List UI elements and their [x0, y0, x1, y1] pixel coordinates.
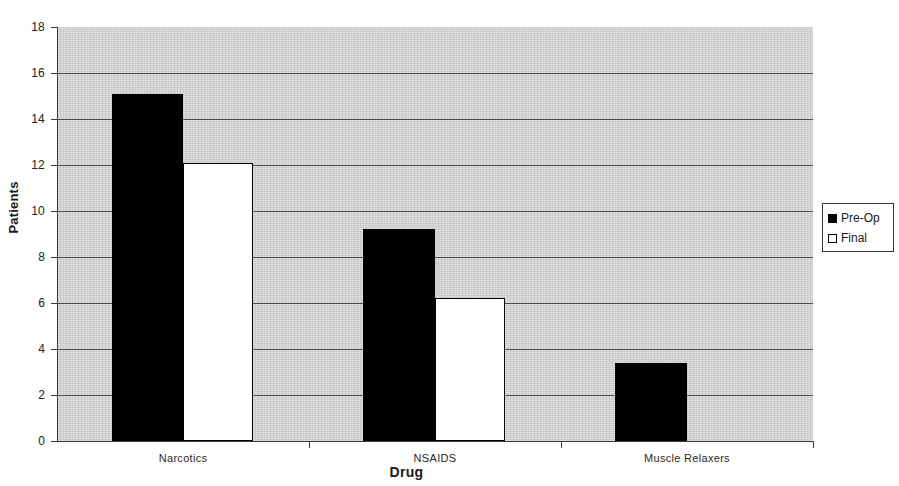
- x-tick-mark-3: [813, 441, 814, 448]
- y-tick-label-6: 6: [17, 297, 45, 309]
- y-tick-label-0: 0: [17, 435, 45, 447]
- legend-item-pre-op: Pre-Op: [828, 208, 889, 228]
- y-tick-mark-14: [51, 119, 58, 120]
- y-tick-label-10: 10: [17, 205, 45, 217]
- x-axis-line: [57, 441, 814, 442]
- x-tick-mark-2: [561, 441, 562, 448]
- y-tick-mark-8: [51, 257, 58, 258]
- y-tick-label-12: 12: [17, 159, 45, 171]
- hollow-square-icon: [828, 234, 837, 243]
- y-tick-label-2: 2: [17, 389, 45, 401]
- y-tick-mark-0: [51, 441, 58, 442]
- legend: Pre-Op Final: [822, 203, 894, 252]
- y-tick-label-16: 16: [17, 67, 45, 79]
- x-axis-title: Drug: [0, 464, 813, 480]
- y-axis-title: Patients: [6, 168, 21, 248]
- legend-label-pre-op: Pre-Op: [841, 212, 880, 225]
- y-tick-label-18: 18: [17, 21, 45, 33]
- bar-muscle-relaxers-pre-op: [615, 363, 687, 441]
- y-tick-label-8: 8: [17, 251, 45, 263]
- bar-narcotics-final: [183, 163, 253, 441]
- y-tick-mark-6: [51, 303, 58, 304]
- y-tick-mark-12: [51, 165, 58, 166]
- bar-nsaids-pre-op: [363, 229, 435, 441]
- y-tick-mark-4: [51, 349, 58, 350]
- y-tick-mark-16: [51, 73, 58, 74]
- plot-area: [57, 27, 813, 441]
- y-tick-mark-18: [51, 27, 58, 28]
- legend-label-final: Final: [841, 232, 867, 245]
- filled-square-icon: [828, 214, 837, 223]
- bar-nsaids-final: [435, 298, 505, 441]
- x-tick-mark-1: [309, 441, 310, 448]
- legend-item-final: Final: [828, 228, 889, 248]
- bar-narcotics-pre-op: [112, 94, 183, 441]
- bar-chart: 18 16 14 12 10 8 6 4 2 0 Narcotics NSAID…: [0, 0, 899, 486]
- y-tick-mark-2: [51, 395, 58, 396]
- y-tick-mark-10: [51, 211, 58, 212]
- y-tick-label-4: 4: [17, 343, 45, 355]
- gridline-16: [57, 73, 813, 74]
- y-axis-line: [57, 27, 58, 442]
- y-tick-label-14: 14: [17, 113, 45, 125]
